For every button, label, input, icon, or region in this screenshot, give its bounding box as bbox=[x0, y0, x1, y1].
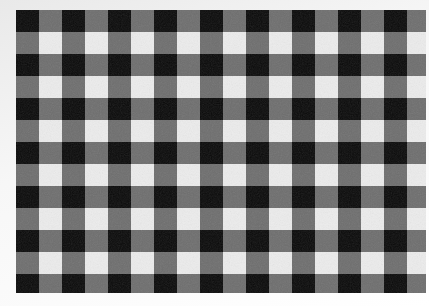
gingham-fabric bbox=[16, 10, 426, 293]
checkered-pattern bbox=[16, 10, 426, 293]
